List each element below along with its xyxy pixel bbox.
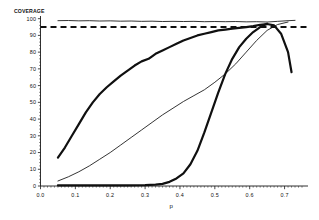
- coverage-chart: 01020304050607080901000.00.10.20.30.40.5…: [0, 0, 319, 220]
- y-tick-label: 50: [30, 99, 37, 105]
- y-tick-label: 80: [30, 49, 37, 55]
- series-late-rising-thick-curve: [58, 24, 267, 186]
- x-tick-label: 0.5: [211, 192, 219, 198]
- y-tick-label: 10: [30, 166, 37, 172]
- y-tick-label: 100: [27, 16, 37, 22]
- x-tick-label: 0.6: [246, 192, 254, 198]
- y-tick-label: 20: [30, 149, 37, 155]
- y-tick-label: 0: [33, 183, 36, 189]
- series-fast-rising-thick-curve: [58, 24, 292, 158]
- x-tick-label: 0.2: [106, 192, 114, 198]
- plot-canvas: 01020304050607080901000.00.10.20.30.40.5…: [0, 0, 319, 220]
- y-tick-label: 60: [30, 83, 37, 89]
- x-tick-label: 0.0: [36, 192, 44, 198]
- y-tick-label: 90: [30, 32, 37, 38]
- x-tick-label: 0.7: [280, 192, 288, 198]
- series-upper-flat-curve: [58, 20, 295, 22]
- y-tick-label: 30: [30, 133, 37, 139]
- axis-ticks: 01020304050607080901000.00.10.20.30.40.5…: [27, 16, 302, 198]
- x-tick-label: 0.4: [176, 192, 184, 198]
- data-curves: [58, 20, 295, 185]
- axis-labels: COVERAGEp: [14, 8, 174, 209]
- x-axis-title: p: [170, 203, 174, 209]
- y-tick-label: 70: [30, 66, 37, 72]
- x-tick-label: 0.1: [71, 192, 79, 198]
- x-tick-label: 0.3: [141, 192, 149, 198]
- y-tick-label: 40: [30, 116, 37, 122]
- y-axis-title: COVERAGE: [14, 8, 45, 14]
- axis-lines: [41, 16, 309, 186]
